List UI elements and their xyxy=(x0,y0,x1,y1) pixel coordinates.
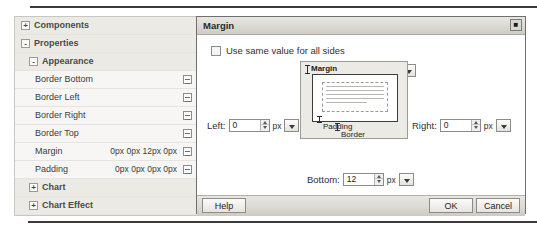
collapse-toggle-icon[interactable]: - xyxy=(29,57,38,66)
bottom-field-group: Bottom:12px xyxy=(307,173,414,186)
dialog-title: Margin xyxy=(203,20,234,31)
use-same-value-label: Use same value for all sides xyxy=(226,45,345,56)
preview-margin-label: Margin xyxy=(311,64,337,73)
close-icon[interactable]: ■ xyxy=(510,19,522,31)
left-spinner[interactable]: 0 xyxy=(229,119,270,132)
property-value: 0px 0px 12px 0px xyxy=(110,143,177,160)
tree-item-label: Chart Effect xyxy=(42,200,93,210)
property-row-border-bottom[interactable]: Border Bottom xyxy=(15,71,197,89)
collapse-toggle-icon[interactable]: - xyxy=(21,39,30,48)
tree-item-appearance[interactable]: -Appearance xyxy=(15,53,197,71)
preview-text-line xyxy=(326,98,384,99)
use-same-value-checkbox[interactable] xyxy=(211,46,221,56)
tree-item-label: Components xyxy=(34,20,89,30)
tree-item-components[interactable]: +Components xyxy=(15,17,197,35)
margin-dialog: Margin ■ Use same value for all sides To… xyxy=(196,16,526,214)
bottom-unit-label: px xyxy=(387,175,396,185)
property-row-border-right[interactable]: Border Right xyxy=(15,107,197,125)
bottom-spinner[interactable]: 12 xyxy=(343,173,384,186)
dialog-body: Use same value for all sides Top:0px Lef… xyxy=(197,35,525,195)
property-editor-icon[interactable] xyxy=(183,165,192,174)
border-measure-tick-icon xyxy=(337,123,338,131)
help-button[interactable]: Help xyxy=(202,198,246,213)
spinner-down-icon[interactable] xyxy=(375,179,383,184)
spinner-down-icon[interactable] xyxy=(261,125,269,130)
bottom-spinner-buttons[interactable] xyxy=(374,174,383,185)
right-unit-dropdown[interactable] xyxy=(496,119,511,132)
property-row-border-top[interactable]: Border Top xyxy=(15,125,197,143)
page-rule-top xyxy=(30,6,537,8)
dialog-titlebar[interactable]: Margin ■ xyxy=(197,17,525,35)
property-row-border-left[interactable]: Border Left xyxy=(15,89,197,107)
tree-item-chart[interactable]: +Chart xyxy=(15,179,197,197)
tree-item-label: Appearance xyxy=(42,56,94,66)
property-editor-icon[interactable] xyxy=(183,75,192,84)
property-label: Border Bottom xyxy=(35,74,93,84)
bottom-input[interactable]: 12 xyxy=(344,174,374,185)
right-spinner[interactable]: 0 xyxy=(440,119,481,132)
padding-measure-tick-icon xyxy=(319,116,320,123)
dialog-footer: Help OK Cancel xyxy=(197,195,525,216)
bottom-unit-dropdown[interactable] xyxy=(399,173,414,186)
property-label: Border Left xyxy=(35,92,80,102)
preview-border-label: Border xyxy=(341,130,365,139)
expand-toggle-icon[interactable]: + xyxy=(29,201,38,210)
box-model-preview: Margin Padding Border xyxy=(300,61,408,139)
left-field-label: Left: xyxy=(207,120,226,131)
cancel-button[interactable]: Cancel xyxy=(476,198,520,213)
ok-button[interactable]: OK xyxy=(429,198,473,213)
property-label: Padding xyxy=(35,164,68,174)
preview-text-line xyxy=(326,102,367,103)
left-spinner-buttons[interactable] xyxy=(260,120,269,131)
property-editor-icon[interactable] xyxy=(183,93,192,102)
preview-text-line xyxy=(326,94,384,95)
property-label: Border Top xyxy=(35,128,79,138)
preview-padding-box xyxy=(322,82,388,112)
tree-item-label: Properties xyxy=(34,38,79,48)
preview-text-line xyxy=(326,90,384,91)
right-input[interactable]: 0 xyxy=(441,120,471,131)
property-row-padding[interactable]: Padding 0px 0px 0px 0px xyxy=(15,161,197,179)
preview-text-line xyxy=(326,86,384,87)
properties-panel: +Components -Properties -Appearance Bord… xyxy=(14,16,197,216)
margin-measure-tick-icon xyxy=(307,65,308,74)
spinner-down-icon[interactable] xyxy=(472,125,480,130)
property-row-margin[interactable]: Margin 0px 0px 12px 0px xyxy=(15,143,197,161)
use-same-value-row[interactable]: Use same value for all sides xyxy=(211,45,345,56)
left-input[interactable]: 0 xyxy=(230,120,260,131)
bottom-field-label: Bottom: xyxy=(307,174,340,185)
page-rule-bottom xyxy=(28,221,537,223)
property-label: Margin xyxy=(35,146,63,156)
left-unit-label: px xyxy=(273,121,282,131)
property-editor-icon[interactable] xyxy=(183,111,192,120)
expand-toggle-icon[interactable]: + xyxy=(29,183,38,192)
property-editor-icon[interactable] xyxy=(183,129,192,138)
property-value: 0px 0px 0px 0px xyxy=(115,161,177,178)
tree-item-properties[interactable]: -Properties xyxy=(15,35,197,53)
preview-border-box xyxy=(312,74,398,122)
left-field-group: Left:0px xyxy=(207,119,299,132)
right-unit-label: px xyxy=(484,121,493,131)
expand-toggle-icon[interactable]: + xyxy=(21,21,30,30)
property-label: Border Right xyxy=(35,110,86,120)
left-unit-dropdown[interactable] xyxy=(284,119,299,132)
property-editor-icon[interactable] xyxy=(183,147,192,156)
tree-item-chart-effect[interactable]: +Chart Effect xyxy=(15,197,197,215)
tree-item-label: Chart xyxy=(42,182,66,192)
right-spinner-buttons[interactable] xyxy=(471,120,480,131)
tree-item-chart-legend[interactable]: +Chart Legend xyxy=(15,215,197,216)
right-field-label: Right: xyxy=(412,120,437,131)
right-field-group: Right:0px xyxy=(412,119,511,132)
